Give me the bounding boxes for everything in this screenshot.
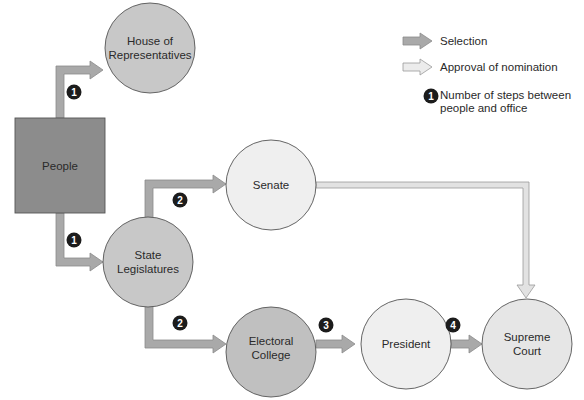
legend-selection-arrow-icon — [403, 33, 432, 49]
step-badge-state-electoral: 2 — [173, 316, 188, 331]
legend-steps-line1: Number of steps between — [440, 89, 571, 102]
electoral-label-line2: College — [249, 348, 294, 362]
senate-label: Senate — [253, 178, 289, 192]
electoral-label-line1: Electoral — [249, 334, 294, 348]
house-label: House of Representatives — [108, 34, 191, 62]
step-badge-people-state: 1 — [67, 233, 82, 248]
legend-selection-label: Selection — [440, 35, 487, 48]
state-label-line1: State — [117, 248, 179, 262]
step-badge-people-house: 1 — [67, 85, 82, 100]
state-legislatures-label: State Legislatures — [117, 248, 179, 276]
step-badge-state-senate: 2 — [173, 193, 188, 208]
house-label-line1: House of — [108, 34, 191, 48]
legend-steps-label: Number of steps between people and offic… — [440, 89, 571, 115]
step-badge-electoral-president: 3 — [319, 318, 334, 333]
legend-steps-line2: people and office — [440, 102, 571, 115]
president-label: President — [382, 337, 431, 351]
arrow-president-to-court — [451, 335, 482, 353]
arrow-state-to-electoral — [145, 306, 226, 353]
house-label-line2: Representatives — [108, 48, 191, 62]
legend-approval-label: Approval of nomination — [440, 61, 558, 74]
electoral-college-label: Electoral College — [249, 334, 294, 362]
state-label-line2: Legislatures — [117, 262, 179, 276]
legend-step-badge-icon: 1 — [424, 89, 439, 104]
supreme-label-line2: Court — [504, 344, 551, 358]
legend-approval-arrow-icon — [403, 59, 432, 75]
supreme-label-line1: Supreme — [504, 330, 551, 344]
step-badge-president-court: 4 — [446, 318, 461, 333]
people-label: People — [42, 159, 78, 173]
supreme-court-label: Supreme Court — [504, 330, 551, 358]
arrow-senate-to-court-approval — [316, 182, 535, 298]
arrow-electoral-to-president — [316, 335, 355, 353]
